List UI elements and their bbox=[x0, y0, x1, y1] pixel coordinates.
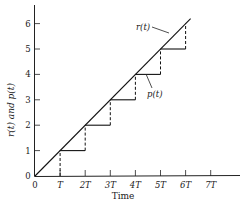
x-tick-label: 7T bbox=[205, 180, 217, 190]
x-tick-label: 2T bbox=[79, 180, 92, 190]
y-tick-label: 1 bbox=[25, 146, 30, 156]
x-tick-label: T bbox=[57, 180, 64, 190]
x-tick-label: 5T bbox=[155, 180, 167, 190]
x-tick-label: 3T bbox=[105, 180, 117, 190]
y-axis-title: r(t) and p(t) bbox=[6, 83, 16, 137]
r-arrow bbox=[152, 27, 169, 33]
x-tick-label: 6T bbox=[180, 180, 192, 190]
y-tick-label: 2 bbox=[25, 120, 30, 130]
y-tick-label: 6 bbox=[25, 19, 30, 29]
p-arrow bbox=[146, 74, 152, 88]
x-tick-label: 0 bbox=[32, 180, 37, 190]
y-tick-label: 4 bbox=[25, 69, 30, 79]
x-axis bbox=[35, 176, 241, 177]
p-label: p(t) bbox=[147, 89, 163, 99]
r-annotation: r(t) bbox=[136, 22, 169, 33]
y-tick-label: 5 bbox=[25, 44, 30, 54]
ramp-and-staircase-figure: 0123456 0T2T3T4T5T6T7T r(t) p(t) Time r(… bbox=[0, 0, 241, 210]
y-ticks: 0123456 bbox=[25, 19, 40, 181]
y-tick-label: 3 bbox=[25, 95, 30, 105]
x-tick-label: 4T bbox=[129, 180, 142, 190]
x-axis-title: Time bbox=[112, 191, 135, 201]
staircase-p bbox=[60, 24, 186, 176]
ramp-line-r bbox=[35, 19, 191, 176]
p-annotation: p(t) bbox=[146, 74, 163, 99]
y-tick-label: 0 bbox=[25, 171, 30, 181]
r-label: r(t) bbox=[136, 22, 150, 32]
